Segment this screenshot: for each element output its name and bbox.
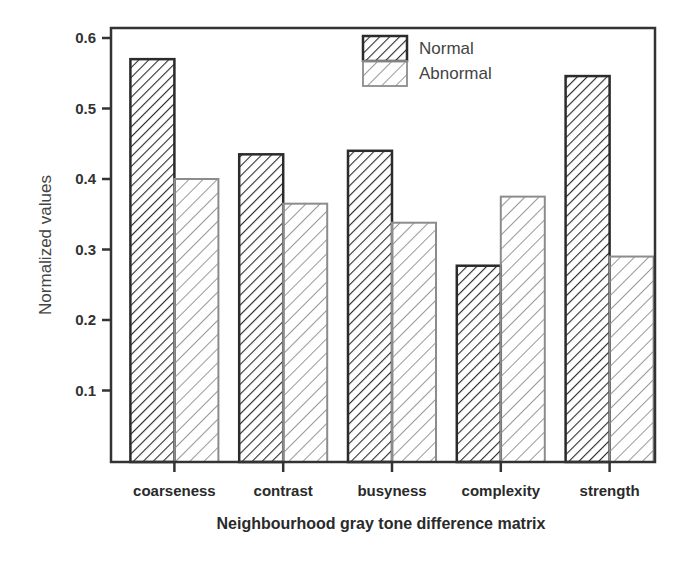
x-tick-label: strength	[580, 482, 640, 499]
x-tick-label: coarseness	[133, 482, 216, 499]
x-axis: coarsenesscontrastbusynesscomplexitystre…	[133, 462, 639, 499]
y-tick-label: 0.3	[75, 241, 96, 258]
legend-label-normal: Normal	[419, 39, 474, 58]
bar-abnormal-coarseness: Abnormal coarseness: 0.4	[174, 179, 218, 462]
legend-swatch-abnormal	[363, 61, 407, 86]
bar-abnormal-complexity: Abnormal complexity: 0.375	[501, 197, 545, 462]
x-tick-label: busyness	[357, 482, 426, 499]
legend: NormalAbnormal	[363, 36, 492, 86]
x-tick-label: complexity	[462, 482, 541, 499]
bar-normal-busyness: Normal busyness: 0.44	[348, 151, 392, 462]
x-tick-label: contrast	[254, 482, 313, 499]
bar-normal-strength: Normal strength: 0.546	[566, 76, 610, 462]
y-tick-label: 0.5	[75, 100, 96, 117]
legend-label-abnormal: Abnormal	[419, 64, 492, 83]
bar-abnormal-strength: Abnormal strength: 0.29	[610, 257, 654, 462]
bar-normal-complexity: Normal complexity: 0.277	[457, 266, 501, 462]
y-tick-label: 0.2	[75, 311, 96, 328]
bars-layer: Normal coarseness: 0.57Abnormal coarsene…	[130, 59, 653, 462]
bar-normal-coarseness: Normal coarseness: 0.57	[130, 59, 174, 462]
bar-chart: Normal coarseness: 0.57Abnormal coarsene…	[0, 0, 692, 565]
bar-normal-contrast: Normal contrast: 0.435	[239, 154, 283, 462]
x-axis-title: Neighbourhood gray tone difference matri…	[217, 515, 546, 532]
bar-abnormal-busyness: Abnormal busyness: 0.338	[392, 223, 436, 462]
bar-abnormal-contrast: Abnormal contrast: 0.365	[283, 204, 327, 462]
y-tick-label: 0.6	[75, 29, 96, 46]
y-axis-title: Normalized values	[36, 175, 55, 315]
y-tick-label: 0.4	[75, 170, 97, 187]
chart-canvas: Normal coarseness: 0.57Abnormal coarsene…	[0, 0, 692, 565]
y-tick-label: 0.1	[75, 382, 96, 399]
legend-swatch-normal	[363, 36, 407, 61]
y-axis: 0.10.20.30.40.50.6	[75, 29, 111, 399]
